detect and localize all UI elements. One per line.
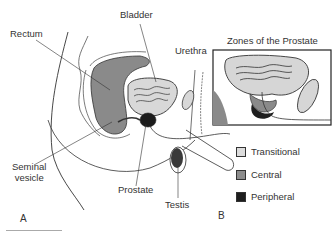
panel-a-label: A — [20, 213, 27, 224]
zones-title: Zones of the Prostate — [227, 35, 318, 46]
swatch-central — [236, 170, 246, 180]
panel-b-label: B — [218, 210, 225, 221]
swatch-peripheral — [236, 192, 246, 202]
legend-item-peripheral: Peripheral — [236, 191, 294, 202]
label-prostate: Prostate — [118, 184, 153, 195]
label-testis: Testis — [165, 199, 189, 210]
testis-shape — [171, 148, 183, 168]
prostate-shape — [140, 113, 156, 127]
legend-item-central: Central — [236, 169, 282, 180]
swatch-transitional — [236, 147, 246, 157]
label-seminal-vesicle: Seminal vesicle — [12, 161, 46, 183]
label-rectum: Rectum — [10, 28, 43, 39]
label-urethra: Urethra — [175, 45, 207, 56]
bladder-shape — [128, 78, 177, 116]
legend-item-transitional: Transitional — [236, 146, 300, 157]
label-bladder: Bladder — [120, 9, 153, 20]
